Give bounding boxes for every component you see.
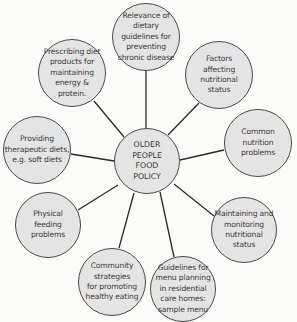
node-label: Physical feeding problems	[31, 209, 65, 240]
connector-common	[180, 150, 224, 160]
connector-maintaining	[174, 184, 214, 216]
node-label: Community strategies for promoting healt…	[86, 261, 139, 303]
node-providing-therapeutic-diets: Providing therapeutic diets, e.g. soft d…	[3, 116, 71, 184]
node-label: Relevance of dietary guidelines for prev…	[118, 11, 175, 63]
hub-label: OLDER PEOPLE FOOD POLICY	[132, 140, 162, 182]
connector-factors	[168, 103, 199, 135]
node-common-nutrition-problems: Common nutrition problems	[224, 109, 292, 177]
connector-physical	[78, 185, 118, 210]
connector-community	[119, 193, 134, 248]
node-label: Factors affecting nutritional status	[200, 54, 238, 96]
node-prescribing-diet-products: Prescribing diet products for maintainin…	[38, 39, 106, 107]
node-factors-affecting-nutritional-status: Factors affecting nutritional status	[185, 41, 253, 109]
connector-prescribing	[94, 101, 124, 137]
node-relevance-of-dietary-guidelines: Relevance of dietary guidelines for prev…	[112, 3, 180, 71]
node-label: Providing therapeutic diets, e.g. soft d…	[5, 134, 69, 165]
node-community-strategies: Community strategies for promoting healt…	[78, 248, 146, 316]
hub-node-older-people-food-policy: OLDER PEOPLE FOOD POLICY	[114, 128, 180, 194]
connector-providing	[71, 154, 114, 161]
node-label: Prescribing diet products for maintainin…	[44, 47, 101, 99]
connector-guidelines	[160, 192, 174, 257]
node-physical-feeding-problems: Physical feeding problems	[15, 192, 81, 258]
node-label: Maintaining and monitoring nutritional s…	[215, 209, 274, 251]
node-label: Guidelines for menu planning in resident…	[155, 263, 210, 315]
node-label: Common nutrition problems	[241, 127, 275, 158]
node-maintaining-and-monitoring: Maintaining and monitoring nutritional s…	[211, 197, 277, 263]
node-guidelines-for-menu-planning: Guidelines for menu planning in resident…	[150, 256, 216, 322]
